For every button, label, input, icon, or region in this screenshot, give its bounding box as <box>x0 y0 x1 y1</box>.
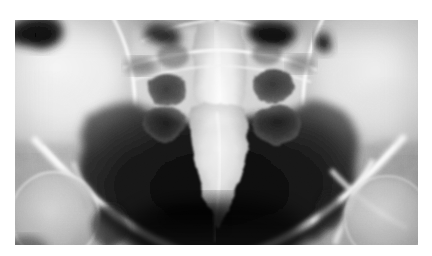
page-root: X-ray anteroposterior pelvis and sacrum <box>0 0 432 256</box>
radiograph-image <box>15 20 418 245</box>
film-grain-fine <box>15 20 418 245</box>
pelvic-radiograph <box>15 20 418 245</box>
